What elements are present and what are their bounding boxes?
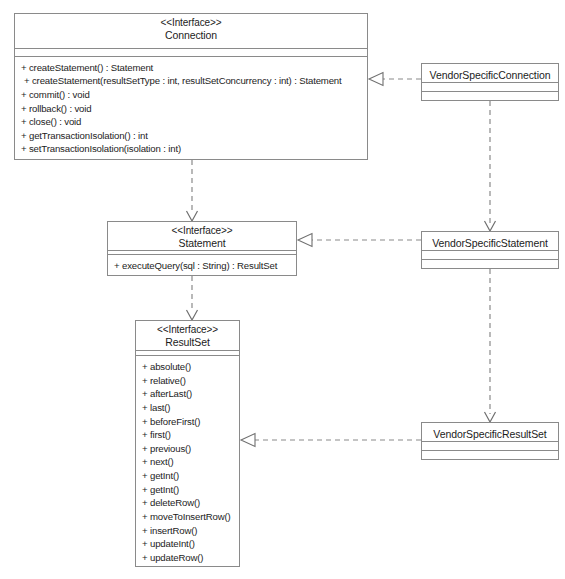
operation-row: + getInt() bbox=[142, 483, 234, 497]
operation-row: + createStatement(resultSetType : int, r… bbox=[21, 74, 362, 88]
class-name: VendorSpecificResultSet bbox=[426, 426, 554, 441]
open-arrowhead-icon bbox=[485, 412, 496, 422]
class-name: Statement bbox=[112, 237, 292, 249]
edge-dependency-connection-statement bbox=[187, 160, 198, 221]
class-name: VendorSpecificStatement bbox=[426, 235, 554, 250]
edge-realization-resultset bbox=[241, 434, 421, 447]
operation-row: + getTransactionIsolation() : int bbox=[21, 129, 362, 143]
class-name: ResultSet bbox=[140, 336, 235, 348]
operations-compartment-vendor-specific-connection bbox=[422, 91, 558, 100]
operation-row: + moveToInsertRow() bbox=[142, 510, 234, 524]
operation-row: + updateRow() bbox=[142, 551, 234, 565]
class-name: Connection bbox=[19, 29, 363, 41]
class-box-vendor-specific-result-set[interactable]: VendorSpecificResultSet bbox=[421, 422, 559, 460]
attributes-compartment-vendor-specific-result-set bbox=[422, 441, 558, 450]
operation-row: + createStatement() : Statement bbox=[21, 61, 362, 75]
operations-compartment-result-set: + absolute() + relative() + afterLast() … bbox=[136, 355, 239, 566]
operations-compartment-vendor-specific-statement bbox=[422, 259, 558, 268]
operation-row: + previous() bbox=[142, 442, 234, 456]
edge-dependency-statement-resultset bbox=[187, 276, 198, 320]
class-title-connection: <<Interface>> Connection bbox=[15, 14, 367, 48]
operation-row: + last() bbox=[142, 401, 234, 415]
class-name: VendorSpecificConnection bbox=[426, 67, 554, 82]
attributes-compartment-connection bbox=[15, 48, 367, 56]
operation-row: + close() : void bbox=[21, 115, 362, 129]
uml-class-diagram: <<Interface>> Connection + createStateme… bbox=[0, 0, 565, 579]
hollow-triangle-arrowhead-icon bbox=[241, 434, 255, 447]
class-title-vendor-specific-statement: VendorSpecificStatement bbox=[422, 232, 558, 250]
attributes-compartment-vendor-specific-connection bbox=[422, 82, 558, 91]
operation-row: + insertRow() bbox=[142, 524, 234, 538]
operation-row: + afterLast() bbox=[142, 387, 234, 401]
class-box-vendor-specific-statement[interactable]: VendorSpecificStatement bbox=[421, 231, 559, 269]
operation-row: + beforeFirst() bbox=[142, 415, 234, 429]
operation-row: + relative() bbox=[142, 374, 234, 388]
operation-row: + setTransactionIsolation(isolation : in… bbox=[21, 142, 362, 156]
class-title-vendor-specific-result-set: VendorSpecificResultSet bbox=[422, 423, 558, 441]
edge-dependency-vsstatement-vsresultset bbox=[485, 269, 496, 422]
stereotype-label: <<Interface>> bbox=[140, 324, 235, 336]
class-box-vendor-specific-connection[interactable]: VendorSpecificConnection bbox=[421, 63, 559, 101]
operations-compartment-connection: + createStatement() : Statement + create… bbox=[15, 56, 367, 159]
edge-realization-connection bbox=[369, 73, 421, 86]
operation-row: + updateInt() bbox=[142, 537, 234, 551]
operation-row: + commit() : void bbox=[21, 88, 362, 102]
operation-row: + next() bbox=[142, 455, 234, 469]
attributes-compartment-vendor-specific-statement bbox=[422, 250, 558, 259]
operation-row: + getInt() bbox=[142, 469, 234, 483]
operation-row: + first() bbox=[142, 428, 234, 442]
hollow-triangle-arrowhead-icon bbox=[369, 73, 383, 86]
open-arrowhead-icon bbox=[187, 211, 198, 221]
edge-realization-statement bbox=[298, 234, 421, 247]
stereotype-label: <<Interface>> bbox=[112, 225, 292, 237]
class-box-result-set[interactable]: <<Interface>> ResultSet + absolute() + r… bbox=[135, 320, 240, 567]
operations-compartment-vendor-specific-result-set bbox=[422, 450, 558, 459]
open-arrowhead-icon bbox=[485, 221, 496, 231]
class-title-statement: <<Interface>> Statement bbox=[108, 222, 296, 250]
class-title-result-set: <<Interface>> ResultSet bbox=[136, 321, 239, 350]
operation-row: + absolute() bbox=[142, 360, 234, 374]
class-box-connection[interactable]: <<Interface>> Connection + createStateme… bbox=[14, 13, 368, 160]
operation-row: + refreshRow() bbox=[142, 564, 234, 566]
stereotype-label: <<Interface>> bbox=[19, 17, 363, 29]
hollow-triangle-arrowhead-icon bbox=[298, 234, 312, 247]
operation-row: + deleteRow() bbox=[142, 496, 234, 510]
operation-row: + rollback() : void bbox=[21, 102, 362, 116]
open-arrowhead-icon bbox=[187, 310, 198, 320]
class-box-statement[interactable]: <<Interface>> Statement + executeQuery(s… bbox=[107, 221, 297, 276]
class-title-vendor-specific-connection: VendorSpecificConnection bbox=[422, 64, 558, 82]
operations-compartment-statement: + executeQuery(sql : String) : ResultSet bbox=[108, 254, 296, 275]
edge-dependency-vsconnection-vsstatement bbox=[485, 101, 496, 231]
operation-row: + executeQuery(sql : String) : ResultSet bbox=[114, 259, 291, 273]
